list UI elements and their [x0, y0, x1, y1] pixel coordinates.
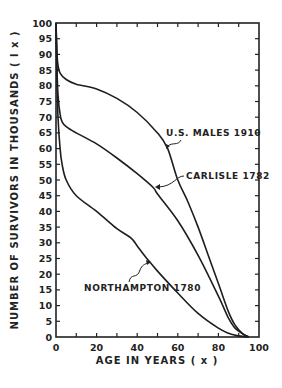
y-tick-label: 15: [39, 284, 52, 295]
y-tick-label: 85: [39, 65, 52, 76]
y-tick-label: 0: [45, 332, 52, 343]
label-carlisle-1782: CARLISLE 1782: [186, 171, 270, 181]
x-tick-label: 60: [171, 342, 185, 353]
y-tick-label: 80: [39, 80, 53, 91]
x-tick-label: 100: [249, 342, 269, 353]
y-tick-label: 50: [39, 175, 53, 186]
x-axis-ticks: 020406080100: [53, 23, 270, 353]
survivorship-chart: 0510152025303540455055606570758085909510…: [0, 0, 282, 388]
label-us-males-1910: U.S. MALES 1910: [166, 128, 261, 138]
leader-northampton: [129, 263, 148, 282]
label-northampton-1780: NORTHAMPTON 1780: [84, 283, 201, 293]
x-tick-label: 40: [131, 342, 145, 353]
arrow-icon: [155, 184, 160, 190]
y-tick-label: 60: [39, 143, 53, 154]
y-tick-label: 5: [45, 316, 52, 327]
y-tick-label: 40: [39, 206, 53, 217]
x-tick-label: 20: [90, 342, 104, 353]
y-tick-label: 75: [39, 96, 52, 107]
y-tick-label: 90: [39, 49, 53, 60]
y-tick-label: 35: [39, 222, 52, 233]
y-tick-label: 25: [39, 253, 52, 264]
y-tick-label: 30: [39, 237, 53, 248]
y-tick-label: 100: [32, 18, 52, 29]
y-tick-label: 70: [39, 112, 53, 123]
y-axis-title: NUMBER OF SURVIVORS IN THOUSANDS ( l x ): [9, 31, 20, 330]
y-tick-label: 55: [39, 159, 52, 170]
y-tick-label: 45: [39, 190, 52, 201]
y-tick-label: 65: [39, 127, 52, 138]
y-tick-label: 95: [39, 33, 52, 44]
x-tick-label: 80: [212, 342, 226, 353]
y-tick-label: 20: [39, 269, 53, 280]
x-axis-title: AGE IN YEARS ( x ): [96, 355, 219, 366]
y-tick-label: 10: [39, 300, 53, 311]
x-tick-label: 0: [53, 342, 60, 353]
leader-us-males: [168, 140, 181, 146]
